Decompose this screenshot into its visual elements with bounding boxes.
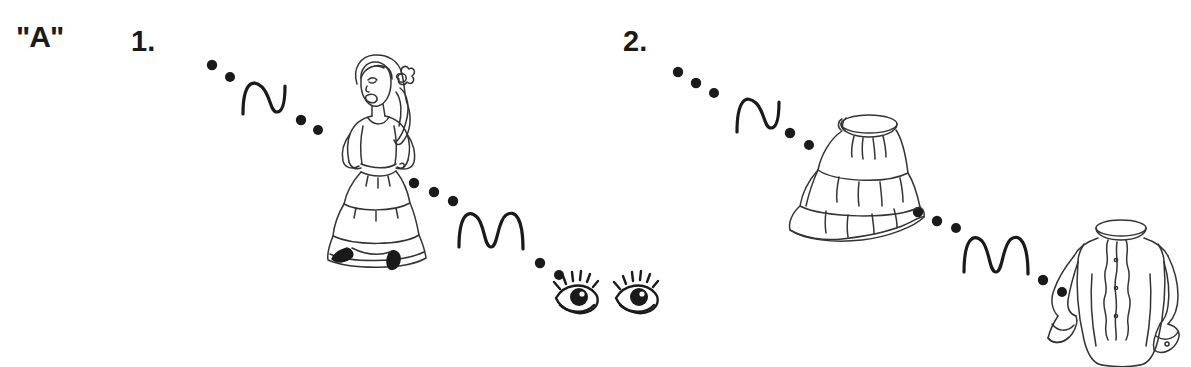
flamenco-dancer-image <box>316 48 436 258</box>
trail-dot <box>448 196 458 206</box>
trail-dot <box>296 115 306 125</box>
pair-of-eyes-image <box>548 268 674 324</box>
squiggle-mark-1 <box>243 83 285 114</box>
trail-dot <box>691 78 701 88</box>
trail-dot <box>951 223 961 233</box>
squiggle-mark-2 <box>459 213 523 249</box>
worksheet-page: "A" 1. 2. <box>0 0 1191 367</box>
trail-dot <box>673 67 683 77</box>
tiered-ruffle-skirt-image <box>784 107 938 242</box>
trail-dot <box>535 258 545 268</box>
ruffled-blouse-image <box>1040 214 1191 367</box>
trail-dot <box>225 72 235 82</box>
trail-dot <box>709 88 719 98</box>
trail-dot <box>207 60 217 70</box>
squiggle-mark-3 <box>737 99 779 132</box>
squiggle-mark-4 <box>964 237 1028 274</box>
